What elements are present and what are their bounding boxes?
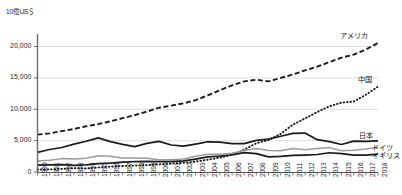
series-label-日本: 日本 <box>359 130 373 140</box>
x-tick-label-1990: 1990 <box>41 162 48 177</box>
x-tick-label-2005: 2005 <box>223 162 230 177</box>
series-line-日本 <box>38 133 379 152</box>
line-chart: 10億US＄ 05,00010,00015,00020,000 19901991… <box>0 0 402 195</box>
x-tick-label-1992: 1992 <box>65 162 72 177</box>
x-tick-label-2001: 2001 <box>174 162 181 177</box>
x-tick-label-2004: 2004 <box>211 162 218 177</box>
x-tick-label-2015: 2015 <box>345 162 352 177</box>
series-label-中国: 中国 <box>358 74 372 84</box>
x-tick-label-2009: 2009 <box>272 162 279 177</box>
series-line-アメリカ <box>38 43 379 135</box>
y-tick-label: 15,000 <box>0 73 32 80</box>
axes-group <box>38 34 379 173</box>
x-tick-label-1991: 1991 <box>53 162 60 177</box>
x-tick-label-1998: 1998 <box>138 162 145 177</box>
y-tick-label: 10,000 <box>0 105 32 112</box>
y-tick-label: 20,000 <box>0 42 32 49</box>
x-tick-label-2014: 2014 <box>332 162 339 177</box>
x-tick-label-1995: 1995 <box>101 162 108 177</box>
series-label-イギリス: イギリス <box>372 150 400 160</box>
x-tick-label-2018: 2018 <box>381 162 388 177</box>
x-tick-label-2002: 2002 <box>186 162 193 177</box>
x-tick-label-1996: 1996 <box>113 162 120 177</box>
x-tick-label-2006: 2006 <box>235 162 242 177</box>
y-tick-label: 0 <box>0 168 32 175</box>
gridlines-group <box>38 47 379 141</box>
x-tick-label-2012: 2012 <box>308 162 315 177</box>
x-tick-label-1997: 1997 <box>126 162 133 177</box>
x-tick-label-2007: 2007 <box>247 162 254 177</box>
x-tick-label-1993: 1993 <box>77 162 84 177</box>
x-tick-label-2017: 2017 <box>369 162 376 177</box>
x-tick-label-2003: 2003 <box>199 162 206 177</box>
x-tick-label-2013: 2013 <box>320 162 327 177</box>
x-tick-label-2016: 2016 <box>357 162 364 177</box>
series-label-アメリカ: アメリカ <box>340 30 368 40</box>
x-tick-label-1994: 1994 <box>89 162 96 177</box>
x-tick-label-2010: 2010 <box>284 162 291 177</box>
series-lines-group <box>38 43 379 170</box>
x-tick-label-1999: 1999 <box>150 162 157 177</box>
x-tick-label-2008: 2008 <box>259 162 266 177</box>
x-tick-label-2011: 2011 <box>296 163 303 177</box>
y-tick-label: 5,000 <box>0 136 32 143</box>
x-tick-label-2000: 2000 <box>162 162 169 177</box>
